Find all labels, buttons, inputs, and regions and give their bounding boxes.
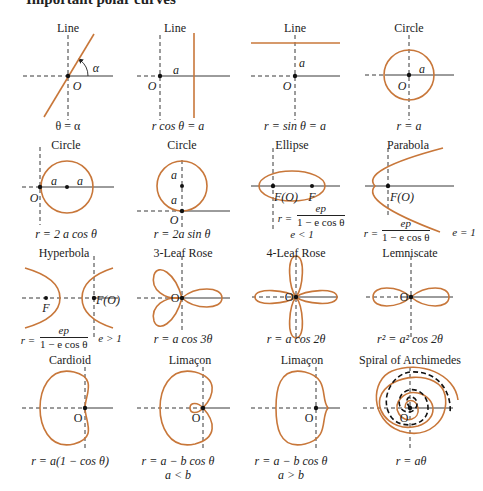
condition: e < 1 [290,229,313,240]
origin-label: O [192,412,201,424]
radius-label: a [171,194,177,206]
origin-label: O [400,412,409,424]
diagram-limacon-dimpled [251,367,340,450]
radius-label: a [77,175,83,187]
curve-equation: r = a cos 3θ [154,333,213,345]
denominator: 1 − e cos θ [382,231,430,243]
condition: a > b [278,469,304,481]
curve-equation: r = aθ [396,455,427,467]
curve-equation: r = a cos 2θ [267,333,326,345]
curve-title: Limaçon [169,354,212,366]
diagram-circle-centered [365,35,454,120]
radius-label: a [419,63,425,75]
diagram-three-leaf-rose [137,256,230,330]
origin-label: O [285,291,294,303]
curve-equation: r² = a² cos 2θ [377,333,443,345]
radius-label: a [171,169,177,181]
equation-prefix: r = [364,228,378,239]
curve-equation: r cos θ = a [152,120,205,132]
diagram-limacon-inner-loop [137,367,230,450]
curve-equation: r = a − b cos θ [255,455,328,467]
focus-label: F(O) [390,191,414,203]
equation-prefix: r = [278,213,292,224]
denominator: 1 − e cos θ [40,338,88,350]
curve-title: Ellipse [275,139,308,151]
curve-title: Limaçon [281,354,324,366]
diagram-circle-sin [137,160,230,228]
equation-fraction: ep 1 − e cos θ [40,325,88,350]
curve-title: Circle [51,139,80,151]
denominator: 1 − e cos θ [297,216,345,228]
numerator: ep [382,218,430,231]
curve-title: 4-Leaf Rose [267,247,326,259]
curve-title: Circle [394,22,423,34]
origin-label: O [171,292,180,304]
origin-label: O [400,291,409,303]
equation-prefix: r = [21,335,35,346]
curve-equation: r = a(1 − cos θ) [31,455,109,467]
origin-label: O [74,412,83,424]
curve-equation: r = 2 a cos θ [35,228,97,240]
curve-title: Spiral of Archimedes [359,354,461,366]
diagram-vertical-line [137,35,230,120]
focus-label: F [42,302,49,314]
focus-label: F(O) [274,191,298,203]
distance-label: a [299,57,305,69]
curve-title: Circle [167,139,196,151]
origin-label: O [170,214,179,226]
curve-equation: r = a − b cos θ [142,455,215,467]
distance-label: a [173,64,179,76]
diagram-cardioid [22,367,113,450]
condition: e = 1 [452,227,475,238]
curve-equation: r = a [397,120,422,132]
curve-title: Line [284,22,306,34]
focus-label: F(O) [96,294,120,306]
angle-label: α [93,62,99,74]
curve-title: Line [57,22,79,34]
origin-label: O [30,192,39,204]
curve-equation: r = sin θ = a [264,120,326,132]
curve-equation: θ = α [56,120,81,132]
curve-equation: r = 2a sin θ [154,228,211,240]
origin-label: O [398,80,407,92]
origin-dots [38,73,413,410]
condition: a < b [165,469,191,481]
curve-title: Cardioid [49,354,91,366]
curve-title: Lemniscate [382,247,437,259]
curve-title: Parabola [387,139,429,151]
origin-label: O [73,80,82,92]
curve-title: Hyperbola [39,247,90,259]
spiral-dashed [386,372,450,425]
curve-title: 3-Leaf Rose [154,247,213,259]
origin-label: O [148,80,157,92]
origin-label: O [283,80,292,92]
focus-label: F [308,191,315,203]
equation-fraction: ep 1 − e cos θ [297,203,345,228]
numerator: ep [297,203,345,216]
origin-label: O [305,412,314,424]
numerator: ep [40,325,88,338]
curve-title: Line [164,22,186,34]
equation-fraction: ep 1 − e cos θ [382,218,430,243]
condition: e > 1 [98,333,121,344]
radius-label: a [51,175,57,187]
